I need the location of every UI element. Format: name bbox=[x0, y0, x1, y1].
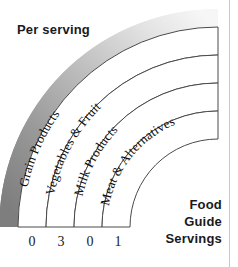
serving-value-milk-products: 0 bbox=[80, 234, 100, 250]
per-serving-label: Per serving bbox=[17, 22, 90, 37]
caption-line-food: Food bbox=[165, 196, 222, 213]
caption-line-servings: Servings bbox=[165, 230, 222, 247]
caption-line-guide: Guide bbox=[165, 213, 222, 230]
serving-value-meat-alternatives: 1 bbox=[108, 234, 128, 250]
food-guide-servings-caption: Food Guide Servings bbox=[165, 196, 222, 247]
servings-values-row: 0 3 0 1 bbox=[18, 234, 140, 254]
food-guide-graphic: Grain Products Vegetables & Fruit Milk P… bbox=[0, 0, 238, 267]
serving-value-vegetables-fruit: 3 bbox=[51, 234, 71, 250]
serving-value-grain-products: 0 bbox=[22, 234, 42, 250]
